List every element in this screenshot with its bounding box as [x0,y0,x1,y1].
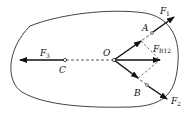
point-c-marker [63,58,66,61]
label-f1-sub: 1 [166,10,170,17]
force-f1-at-o [114,41,141,60]
force-f2-at-o [114,60,138,78]
label-f2-sub: 2 [177,100,181,107]
label-fr12-sub: R12 [159,47,171,54]
label-f3-sub: 3 [46,52,50,59]
force-f2-arrow [148,86,167,99]
parallelogram-side-2 [138,60,160,78]
label-b: B [133,88,141,98]
label-c: C [59,65,66,75]
dashed-line-ob [136,77,147,85]
point-b-marker [146,84,149,87]
force-diagram: O A B C F 1 F 2 F 3 F R12 [0,0,189,126]
label-a: A [141,23,149,33]
point-a-marker [151,32,154,35]
force-f1-arrow [153,17,174,32]
body-outline [11,11,178,107]
point-o-marker [112,58,115,61]
label-o: O [103,48,111,58]
